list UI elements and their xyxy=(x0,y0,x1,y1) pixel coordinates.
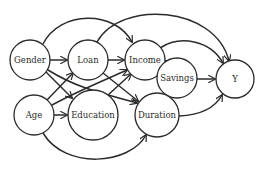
node-loan: Loan xyxy=(68,40,108,80)
node-savings: Savings xyxy=(157,58,197,98)
node-gender: Gender xyxy=(10,40,50,80)
node-label: Savings xyxy=(160,73,194,83)
node-y: Y xyxy=(216,60,254,98)
node-education: Education xyxy=(68,90,118,140)
node-label: Y xyxy=(231,74,238,84)
node-label: Age xyxy=(25,110,43,120)
causal-diagram: Gender Loan Income Savings Y Age Educati… xyxy=(0,0,265,170)
node-label: Gender xyxy=(14,55,47,65)
edges xyxy=(43,14,229,159)
node-label: Income xyxy=(129,55,161,65)
edge-duration-y xyxy=(179,95,222,116)
node-label: Education xyxy=(71,110,115,120)
node-label: Duration xyxy=(138,110,177,120)
node-duration: Duration xyxy=(135,93,179,137)
node-age: Age xyxy=(14,95,54,135)
node-label: Loan xyxy=(77,55,99,65)
